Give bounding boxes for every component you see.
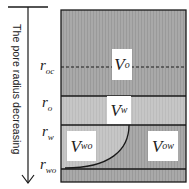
label-v-ow: Vow xyxy=(148,131,178,161)
label-r-oc: roc xyxy=(40,58,54,76)
label-v-w: Vw xyxy=(107,96,131,124)
label-r-o: ro xyxy=(42,95,52,113)
region-bottom xyxy=(61,169,186,182)
label-r-wo: rwo xyxy=(40,157,56,175)
pore-radius-diagram: The pore radius decreasing roc ro rw rwo… xyxy=(0,0,189,189)
label-r-w: rw xyxy=(42,124,54,142)
axis-label: The pore radius decreasing xyxy=(11,24,23,166)
label-v-wo: Vwo xyxy=(67,131,96,161)
label-v-o: Vo xyxy=(112,49,132,80)
